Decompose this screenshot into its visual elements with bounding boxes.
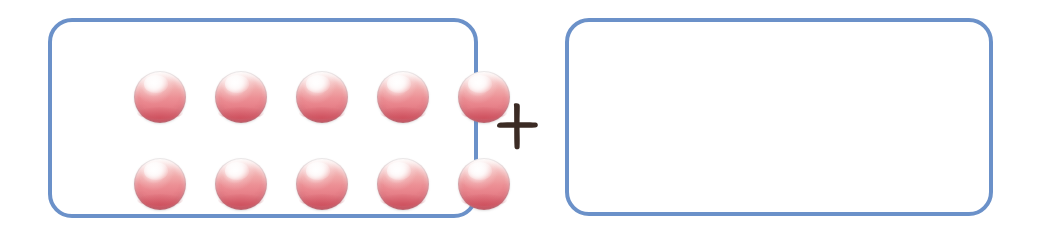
counter-highlight-icon [468,75,492,93]
counter-rim-shadow-icon [299,194,345,205]
counter-chip[interactable] [215,158,267,210]
counter-chip[interactable] [134,158,186,210]
counter-rim-shadow-icon [218,194,264,205]
counter-highlight-icon [225,162,249,180]
plus-icon [496,102,538,150]
counter-highlight-icon [144,162,168,180]
counter-rim-shadow-icon [380,107,426,118]
counter-chip[interactable] [296,71,348,123]
counter-rim-shadow-icon [299,107,345,118]
right-group-box[interactable] [565,18,993,216]
counter-chip[interactable] [215,71,267,123]
counter-chip[interactable] [377,71,429,123]
left-group-box[interactable] [48,18,478,218]
counter-highlight-icon [144,75,168,93]
counter-chip[interactable] [377,158,429,210]
worksheet-canvas [0,0,1061,239]
counter-highlight-icon [306,162,330,180]
counter-highlight-icon [225,75,249,93]
counter-highlight-icon [387,75,411,93]
counter-rim-shadow-icon [461,194,507,205]
counter-highlight-icon [387,162,411,180]
left-group-top-row [134,70,510,123]
counter-rim-shadow-icon [137,194,183,205]
counter-rim-shadow-icon [218,107,264,118]
counter-chip[interactable] [296,158,348,210]
counter-highlight-icon [468,162,492,180]
left-group-bottom-row [134,157,510,210]
counter-highlight-icon [306,75,330,93]
counter-rim-shadow-icon [380,194,426,205]
counter-rim-shadow-icon [137,107,183,118]
counter-chip[interactable] [134,71,186,123]
counter-chip[interactable] [458,158,510,210]
